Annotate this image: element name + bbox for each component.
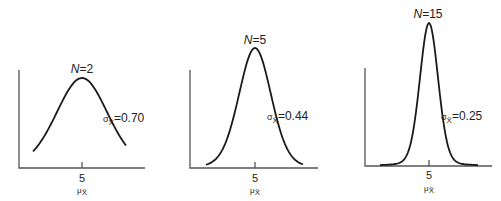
x-tick-label: 5: [79, 172, 85, 184]
n-label: N=5: [244, 33, 267, 47]
distribution-curve: [206, 48, 303, 165]
distribution-curve: [380, 23, 478, 165]
x-axis-label: μX̄: [77, 186, 88, 197]
sigma-label: σX̄=0.70: [103, 111, 145, 127]
x-tick-label: 5: [426, 169, 432, 181]
panel-n15: N=15 σX̄=0.25 5 μX̄: [365, 7, 492, 195]
panel-n2: N=2 σX̄=0.70 5 μX̄: [19, 62, 145, 197]
x-tick-label: 5: [252, 172, 258, 184]
x-axis-label: μX̄: [424, 184, 435, 195]
x-axis-label: μX̄: [250, 186, 261, 197]
sigma-label: σX̄=0.44: [267, 109, 309, 125]
panel-n5: N=5 σX̄=0.44 5 μX̄: [190, 33, 318, 197]
distribution-curve: [33, 78, 126, 151]
n-label: N=2: [71, 62, 94, 76]
sigma-label: σX̄=0.25: [441, 109, 483, 125]
sampling-distribution-figure: N=2 σX̄=0.70 5 μX̄ N=5 σX̄=0.44 5 μX̄ N=…: [0, 0, 501, 201]
n-label: N=15: [413, 7, 442, 21]
